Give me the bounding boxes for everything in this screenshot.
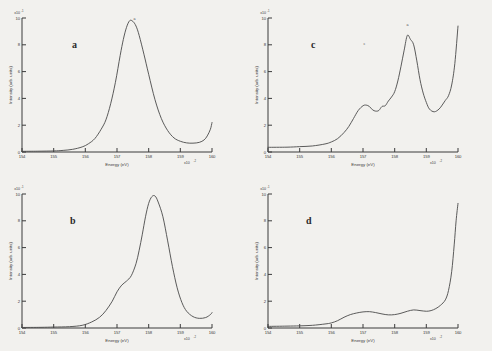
x-tick-label: 154 — [19, 154, 26, 159]
x-tick-label: 157 — [114, 154, 121, 159]
panel-d-axes: 154 155 156 157 158 159 160 0 2 4 6 8 10… — [254, 185, 462, 343]
x-tick-label: 160 — [209, 154, 216, 159]
y-axis-exponent-power: -1 — [21, 185, 24, 189]
x-tick-label: 159 — [177, 330, 184, 335]
x-axis-exponent-power: -2 — [194, 159, 197, 163]
x-tick-label: 155 — [296, 330, 303, 335]
x-tick-label: 156 — [328, 330, 335, 335]
y-axis-exponent-power: -1 — [267, 9, 270, 13]
y-tick-label: 2 — [264, 123, 267, 128]
x-axis-exponent-power: -2 — [440, 335, 443, 339]
x-axis-exponent-mantissa: x10 — [430, 161, 436, 165]
y-axis-title: Intensity (arb. units) — [254, 242, 259, 280]
panel-c-axes: 154 155 156 157 158 159 160 0 2 4 6 8 10… — [254, 9, 462, 167]
x-tick-label: 160 — [455, 330, 462, 335]
y-tick-label: 6 — [264, 69, 267, 74]
y-tick-label: 4 — [264, 272, 267, 277]
y-tick-label: 10 — [16, 192, 21, 197]
y-tick-label: 6 — [18, 69, 21, 74]
spectrum-curve-d — [268, 203, 458, 326]
y-tick-label: 8 — [264, 42, 267, 47]
panel-a: 154 155 156 157 158 159 160 0 2 4 6 8 10… — [0, 0, 246, 175]
y-tick-label: 6 — [264, 245, 267, 250]
y-tick-label: 10 — [262, 192, 267, 197]
panel-b: 154 155 156 157 158 159 160 0 2 4 6 8 10… — [0, 176, 246, 351]
x-axis-title: Energy (eV) — [105, 338, 129, 343]
y-tick-label: 10 — [262, 16, 267, 21]
panel-b-axes: 154 155 156 157 158 159 160 0 2 4 6 8 10… — [8, 185, 216, 343]
y-tick-label: 4 — [264, 96, 267, 101]
panel-d: 154 155 156 157 158 159 160 0 2 4 6 8 10… — [246, 176, 492, 351]
y-tick-label: 2 — [264, 299, 267, 304]
y-tick-label: 4 — [18, 96, 21, 101]
panel-letter-a: a — [72, 39, 77, 50]
spectrum-curve-b — [22, 196, 212, 328]
x-tick-label: 160 — [455, 154, 462, 159]
y-tick-label: 8 — [264, 218, 267, 223]
x-axis-title: Energy (eV) — [105, 162, 129, 167]
x-axis-exponent-power: -2 — [440, 159, 443, 163]
x-tick-label: 156 — [328, 154, 335, 159]
y-axis-exponent-mantissa: x10 — [14, 11, 20, 15]
x-tick-label: 155 — [50, 330, 57, 335]
y-axis-title: Intensity (arb. units) — [254, 66, 259, 104]
y-axis-exponent-mantissa: x10 — [14, 187, 20, 191]
x-axis-exponent-mantissa: x10 — [184, 161, 190, 165]
x-tick-label: 158 — [391, 330, 398, 335]
x-tick-label: 156 — [82, 154, 89, 159]
panel-a-axes: 154 155 156 157 158 159 160 0 2 4 6 8 10… — [8, 9, 216, 167]
y-tick-label: 8 — [18, 218, 21, 223]
panel-c: 154 155 156 157 158 159 160 0 2 4 6 8 10… — [246, 0, 492, 175]
y-tick-label: 2 — [18, 123, 21, 128]
x-axis-title: Energy (eV) — [351, 162, 375, 167]
y-axis-exponent-mantissa: x10 — [260, 187, 266, 191]
x-tick-label: 160 — [209, 330, 216, 335]
peak-label-c-main: a — [407, 23, 409, 27]
x-axis-exponent-power: -2 — [194, 335, 197, 339]
x-tick-label: 158 — [391, 154, 398, 159]
x-axis-title: Energy (eV) — [351, 338, 375, 343]
x-tick-label: 157 — [360, 154, 367, 159]
x-tick-label: 159 — [423, 330, 430, 335]
y-axis-exponent-power: -1 — [21, 9, 24, 13]
panel-letter-d: d — [306, 215, 312, 226]
spectrum-curve-a — [22, 20, 212, 151]
panel-letter-c: c — [311, 39, 316, 50]
y-tick-label: 6 — [18, 245, 21, 250]
y-axis-title: Intensity (arb. units) — [8, 242, 13, 280]
x-tick-label: 155 — [296, 154, 303, 159]
y-axis-exponent-mantissa: x10 — [260, 11, 266, 15]
peak-label-c-shoulder: c — [364, 42, 366, 46]
x-tick-label: 155 — [50, 154, 57, 159]
x-tick-label: 154 — [265, 330, 272, 335]
x-axis-exponent-mantissa: x10 — [430, 337, 436, 341]
panel-letter-b: b — [70, 215, 76, 226]
y-tick-label: 8 — [18, 42, 21, 47]
y-tick-label: 2 — [18, 299, 21, 304]
x-tick-label: 159 — [177, 154, 184, 159]
figure-four-panel-spectra: 154 155 156 157 158 159 160 0 2 4 6 8 10… — [0, 0, 492, 351]
x-tick-label: 157 — [114, 330, 121, 335]
y-tick-label: 4 — [18, 272, 21, 277]
y-axis-exponent-power: -1 — [267, 185, 270, 189]
x-axis-exponent-mantissa: x10 — [184, 337, 190, 341]
x-tick-label: 156 — [82, 330, 89, 335]
peak-label-a: a — [134, 17, 136, 21]
x-tick-label: 159 — [423, 154, 430, 159]
x-tick-label: 154 — [265, 154, 272, 159]
x-tick-label: 154 — [19, 330, 26, 335]
x-tick-label: 157 — [360, 330, 367, 335]
y-tick-label: 10 — [16, 16, 21, 21]
x-tick-label: 158 — [145, 330, 152, 335]
x-tick-label: 158 — [145, 154, 152, 159]
y-axis-title: Intensity (arb. units) — [8, 66, 13, 104]
